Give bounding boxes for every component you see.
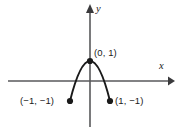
point-right-endpoint xyxy=(107,98,113,104)
coordinate-plane xyxy=(0,0,177,133)
vertex-point-label: (0, 1) xyxy=(94,47,117,58)
point-vertex xyxy=(87,58,93,64)
point-left-endpoint xyxy=(67,98,73,104)
y-axis-arrowhead xyxy=(86,4,94,13)
left-point-label: (−1, −1) xyxy=(20,95,54,106)
graph-figure: y x (0, 1) (−1, −1) (1, −1) xyxy=(0,0,177,133)
x-axis-label: x xyxy=(159,60,164,71)
y-axis-label: y xyxy=(96,3,101,14)
x-axis-arrowhead xyxy=(168,77,175,86)
right-point-label: (1, −1) xyxy=(115,95,143,106)
